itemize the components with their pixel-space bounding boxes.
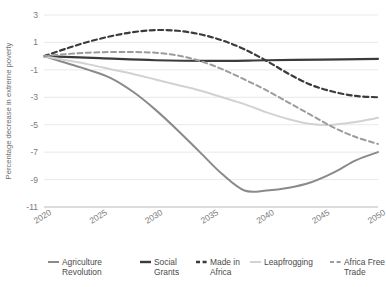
y-axis-tick-labels: 31-1-3-5-7-9-11 <box>26 10 38 212</box>
y-tick-label: -1 <box>30 65 38 75</box>
y-tick-label: -5 <box>30 120 38 130</box>
legend-label-made-in-africa: Africa <box>210 267 232 277</box>
chart-legend: AgricultureRevolutionSocialGrantsMade in… <box>48 257 385 277</box>
x-tick-label: 2040 <box>254 207 276 226</box>
series-lines <box>44 30 378 192</box>
y-axis-title: Percentage decrease in extreme poverty <box>4 42 13 179</box>
y-tick-label: -7 <box>30 147 38 157</box>
x-tick-label: 2035 <box>199 207 221 226</box>
legend-label-made-in-africa: Made in <box>210 257 240 267</box>
legend-label-social-grants: Social <box>154 257 177 267</box>
x-axis-tick-labels: 2020202520302035204020452050 <box>32 207 386 226</box>
legend-label-leapfrogging: Leapfrogging <box>264 257 313 267</box>
chart-canvas: 31-1-3-5-7-9-11 202020252030203520402045… <box>0 0 386 287</box>
legend-label-agriculture-revolution: Agriculture <box>62 257 102 267</box>
y-tick-label: 1 <box>33 37 38 47</box>
series-line-social-grants <box>44 56 378 61</box>
legend-label-social-grants: Grants <box>154 267 179 277</box>
x-tick-label: 2030 <box>143 207 165 226</box>
legend-label-africa-free-trade: Africa Free <box>344 257 385 267</box>
y-tick-label: -11 <box>26 202 38 212</box>
x-tick-label: 2045 <box>310 207 332 226</box>
legend-label-agriculture-revolution: Revolution <box>62 267 102 277</box>
y-tick-label: -3 <box>30 92 38 102</box>
legend-label-africa-free-trade: Trade <box>344 267 366 277</box>
y-axis-label: Percentage decrease in extreme poverty <box>4 42 13 179</box>
x-tick-label: 2025 <box>87 207 109 226</box>
line-chart: 31-1-3-5-7-9-11 202020252030203520402045… <box>0 0 386 287</box>
y-tick-label: 3 <box>33 10 38 20</box>
series-line-made-in-africa <box>44 30 378 97</box>
y-tick-label: -9 <box>30 175 38 185</box>
x-tick-label: 2050 <box>366 207 386 226</box>
